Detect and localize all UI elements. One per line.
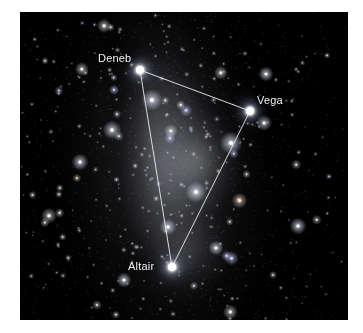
star-marker-deneb: [136, 66, 144, 74]
asterism-lines: [20, 12, 348, 320]
summer-triangle-outline: [140, 70, 250, 267]
screenshot-root: DenebVegaAltair: [0, 0, 363, 333]
star-marker-altair: [168, 263, 176, 271]
sky-photograph: DenebVegaAltair: [20, 12, 348, 320]
star-label-deneb: Deneb: [98, 52, 131, 64]
star-label-altair: Altair: [128, 260, 154, 272]
star-label-vega: Vega: [257, 94, 283, 106]
star-marker-vega: [246, 107, 254, 115]
